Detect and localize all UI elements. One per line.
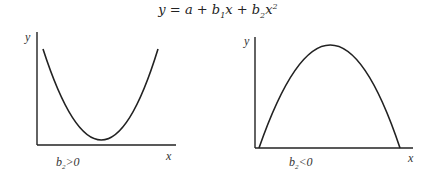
y-label-right: y bbox=[244, 34, 249, 49]
panel-convex bbox=[37, 32, 176, 145]
condition-left: b2>0 bbox=[56, 155, 80, 171]
x-label-right: x bbox=[408, 151, 413, 166]
y-label-left: y bbox=[25, 30, 30, 45]
cond-rel-left: >0 bbox=[66, 155, 80, 169]
figure bbox=[0, 0, 436, 179]
concave-curve bbox=[259, 45, 400, 148]
x-label-left: x bbox=[166, 149, 171, 164]
condition-right: b2<0 bbox=[289, 155, 313, 171]
cond-rel-right: <0 bbox=[299, 155, 313, 169]
convex-curve bbox=[43, 49, 158, 140]
panel-concave bbox=[255, 37, 413, 148]
